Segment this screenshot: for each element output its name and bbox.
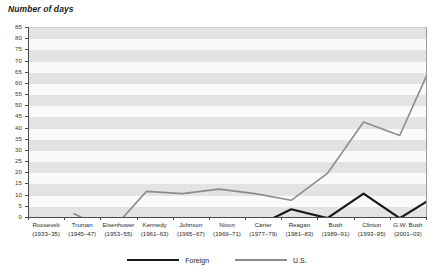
y-axis-tick	[25, 105, 28, 106]
y-axis-tick	[25, 139, 28, 140]
y-axis-tick-label: 80	[15, 35, 22, 41]
y-axis-tick-label: 65	[15, 69, 22, 75]
x-label-years: (1945–47)	[68, 229, 96, 238]
x-label-name: Nixon	[219, 221, 235, 228]
x-axis-line	[28, 217, 426, 218]
x-label-years: (1965–67)	[177, 229, 205, 238]
x-axis-tick-label: Kennedy(1961–63)	[141, 220, 169, 238]
x-label-years: (1953–55)	[103, 229, 135, 238]
x-axis-labels: Roosevelt(1933–35)Truman(1945–47)Eisenho…	[28, 220, 426, 250]
y-axis-tick-label: 5	[19, 203, 22, 209]
x-label-years: (2001–03)	[393, 229, 422, 238]
chart-legend: ForeignU.S.	[0, 250, 434, 270]
x-label-years: (1977–79)	[249, 229, 277, 238]
y-axis-tick-label: 40	[15, 124, 22, 130]
y-axis-tick-label: 10	[15, 192, 22, 198]
x-axis-tick	[64, 217, 65, 220]
y-axis-tick	[25, 49, 28, 50]
x-axis-tick	[209, 217, 210, 220]
x-axis-tick	[173, 217, 174, 220]
x-axis-tick-label: Bush(1989–91)	[322, 220, 350, 238]
x-axis-tick-label: Reagan(1981–83)	[285, 220, 313, 238]
y-axis-tick-label: 55	[15, 91, 22, 97]
y-axis-tick	[25, 61, 28, 62]
y-axis-tick	[25, 195, 28, 196]
y-axis-tick	[25, 161, 28, 162]
x-label-name: Johnson	[179, 221, 202, 228]
x-label-name: Bush	[329, 221, 343, 228]
y-axis-tick	[25, 94, 28, 95]
y-axis-line	[28, 27, 29, 218]
y-axis-tick	[25, 27, 28, 28]
series-line-foreign	[74, 194, 427, 218]
x-label-years: (1989–91)	[322, 229, 350, 238]
x-label-years: (1933–35)	[32, 229, 60, 238]
x-label-years: (1993–95)	[358, 229, 386, 238]
y-axis-tick-label: 30	[15, 147, 22, 153]
x-label-name: Clinton	[362, 221, 381, 228]
y-axis-tick	[25, 150, 28, 151]
y-axis-tick	[25, 83, 28, 84]
x-axis-tick-label: G.W. Bush(2001–03)	[393, 220, 422, 238]
legend-line-swatch	[127, 259, 179, 261]
x-label-name: Reagan	[289, 221, 310, 228]
y-axis-tick	[25, 116, 28, 117]
legend-label: U.S.	[293, 257, 307, 264]
x-label-name: Truman	[72, 221, 93, 228]
x-axis-tick	[28, 217, 29, 220]
legend-item-foreign[interactable]: Foreign	[127, 257, 209, 264]
y-axis-tick-label: 45	[15, 113, 22, 119]
y-axis-labels: 0510152025303540455055606570758085	[0, 0, 26, 272]
x-axis-tick	[426, 217, 427, 220]
y-axis-tick-label: 60	[15, 80, 22, 86]
x-axis-tick	[100, 217, 101, 220]
grid-band	[28, 28, 426, 39]
x-axis-tick-label: Johnson(1965–67)	[177, 220, 205, 238]
x-label-name: Eisenhower	[103, 221, 135, 228]
x-axis-tick-label: Carter(1977–79)	[249, 220, 277, 238]
chart-container: Number of days 0510152025303540455055606…	[0, 0, 434, 272]
x-label-name: G.W. Bush	[393, 221, 422, 228]
x-axis-tick	[390, 217, 391, 220]
legend-label: Foreign	[185, 257, 209, 264]
x-axis-tick-label: Nixon(1969–71)	[213, 220, 241, 238]
plot-area	[28, 27, 427, 218]
legend-item-us[interactable]: U.S.	[235, 257, 307, 264]
legend-line-swatch	[235, 259, 287, 261]
x-axis-tick	[137, 217, 138, 220]
x-label-name: Carter	[255, 221, 272, 228]
y-axis-tick	[25, 172, 28, 173]
y-axis-tick	[25, 206, 28, 207]
y-axis-tick-label: 25	[15, 158, 22, 164]
x-axis-tick	[354, 217, 355, 220]
x-label-years: (1969–71)	[213, 229, 241, 238]
series-line-us	[74, 55, 427, 218]
y-axis-tick	[25, 38, 28, 39]
y-axis-tick-label: 85	[15, 24, 22, 30]
y-axis-tick-label: 15	[15, 180, 22, 186]
series-lines	[56, 55, 427, 218]
x-label-name: Roosevelt	[33, 221, 60, 228]
x-axis-tick	[245, 217, 246, 220]
y-axis-tick	[25, 183, 28, 184]
x-label-years: (1961–63)	[141, 229, 169, 238]
x-label-name: Kennedy	[143, 221, 167, 228]
y-axis-tick	[25, 72, 28, 73]
y-axis-tick	[25, 128, 28, 129]
y-axis-tick-label: 0	[19, 214, 22, 220]
y-axis-tick-label: 75	[15, 46, 22, 52]
x-axis-tick	[317, 217, 318, 220]
x-axis-tick-label: Roosevelt(1933–35)	[32, 220, 60, 238]
x-label-years: (1981–83)	[285, 229, 313, 238]
y-axis-tick-label: 50	[15, 102, 22, 108]
x-axis-tick-label: Clinton(1993–95)	[358, 220, 386, 238]
x-axis-tick-label: Eisenhower(1953–55)	[103, 220, 135, 238]
x-axis-tick	[281, 217, 282, 220]
y-axis-tick-label: 35	[15, 136, 22, 142]
y-axis-tick-label: 20	[15, 169, 22, 175]
y-axis-tick-label: 70	[15, 57, 22, 63]
x-axis-tick-label: Truman(1945–47)	[68, 220, 96, 238]
